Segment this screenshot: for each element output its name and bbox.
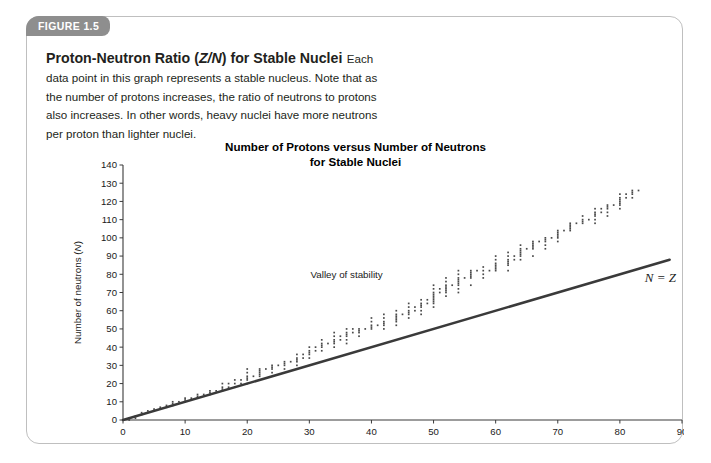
x-axis-title: Number of protons (Z) [354, 443, 450, 445]
x-tick-label: 60 [490, 426, 501, 437]
figure-heading: Proton-Neutron Ratio (Z/N) for Stable Nu… [46, 50, 342, 66]
x-tick-label: 0 [120, 426, 125, 437]
y-tick-label: 70 [106, 287, 117, 298]
reference-line-nz [123, 260, 670, 420]
y-tick-label: 80 [106, 269, 117, 280]
heading-text-part2: ) for Stable Nuclei [222, 50, 343, 66]
y-tick-label: 30 [106, 360, 117, 371]
y-tick-label: 120 [101, 196, 117, 207]
x-tick-label: 50 [428, 426, 439, 437]
scatter-plot-svg: 0102030405060708090100110120130140010203… [27, 127, 684, 445]
y-tick-label: 40 [106, 342, 117, 353]
y-tick-label: 10 [106, 396, 117, 407]
y-tick-label: 110 [102, 214, 117, 225]
heading-text-part1: Proton-Neutron Ratio ( [46, 50, 199, 66]
y-tick-label: 0 [112, 414, 117, 425]
y-axis-title: Number of neutrons (N) [72, 241, 83, 344]
x-tick-label: 90 [677, 426, 684, 437]
x-tick-label: 40 [366, 426, 377, 437]
x-tick-label: 20 [242, 426, 253, 437]
y-tick-label: 20 [106, 378, 117, 389]
x-tick-label: 30 [304, 426, 315, 437]
data-point-cloud [128, 190, 639, 421]
y-tick-label: 100 [101, 232, 117, 243]
y-tick-label: 140 [101, 159, 117, 170]
plot-annotations: Valley of stabilityN = Z [310, 269, 676, 285]
annotation-n-equals-z: N = Z [644, 270, 677, 285]
plot-area: Number of Protons versus Number of Neutr… [27, 127, 684, 445]
x-tick-label: 80 [615, 426, 626, 437]
y-tick-label: 90 [106, 250, 117, 261]
heading-italic-symbol: Z/N [199, 50, 222, 66]
plot-axes: 0102030405060708090100110120130140010203… [72, 159, 684, 445]
x-tick-label: 10 [180, 426, 191, 437]
x-tick-label: 70 [552, 426, 563, 437]
figure-card: FIGURE 1.5 Proton-Neutron Ratio (Z/N) fo… [26, 16, 683, 444]
y-tick-label: 130 [101, 178, 117, 189]
y-tick-label: 50 [106, 323, 117, 334]
y-tick-label: 60 [106, 305, 117, 316]
figure-badge: FIGURE 1.5 [26, 16, 110, 36]
annotation-valley-of-stability: Valley of stability [310, 269, 382, 280]
